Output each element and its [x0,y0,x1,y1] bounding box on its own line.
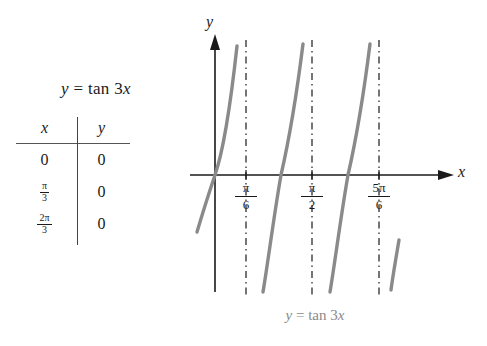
fraction-numerator: 2π [37,213,51,224]
fraction-numerator: 5π [359,181,399,195]
fraction: π 3 [40,181,49,203]
y-axis-label: y [206,13,213,31]
caption-tan: tan [308,307,326,323]
x-axis-label: x [458,163,465,181]
fraction-numerator: π [226,181,266,195]
table-header-row: x y [16,113,130,143]
caption-equals: = [296,307,304,323]
tangent-branch-3 [330,44,370,292]
table-body: 0 0 π 3 0 2π 3 [16,144,130,240]
fraction-denominator: 3 [37,224,51,236]
fraction-denominator: 6 [235,196,257,212]
value-table: x y 0 0 π 3 0 [16,113,130,240]
tangent-branch-2 [263,44,303,292]
equation-y: y [61,79,69,98]
graph-caption: y = tan 3x [225,307,405,324]
asymptote-lines [246,40,379,295]
x-tick-label-pi-over-2: π 2 [292,181,332,212]
tangent-branch-4 [391,240,399,290]
x-tick-label-5pi-over-6: 5π 6 [359,181,399,212]
table-cell-x: 0 [16,151,73,169]
x-axis-arrow [438,170,454,180]
table-header-x: x [16,113,73,143]
equation-tan: tan [88,79,110,98]
table-cell-y: 0 [73,215,130,233]
graph-panel: y x π 6 π 2 5π 6 y = tan 3x [190,0,487,346]
table-cell-x: 2π 3 [16,213,73,235]
x-axis [190,170,454,180]
fraction-denominator: 3 [40,192,49,204]
equation-x: x [123,79,131,98]
caption-three: 3 [330,307,338,323]
table-column-divider [77,117,78,245]
fraction-numerator: π [40,181,49,192]
table-cell-x: π 3 [16,181,73,203]
table-row: 0 0 [16,144,130,176]
table-panel: y = tan 3x x y 0 0 π [0,0,190,346]
figure-root: y = tan 3x x y 0 0 π [0,0,487,346]
fraction-denominator: 6 [368,196,390,212]
equation-label: y = tan 3x [26,79,166,99]
equation-equals: = [74,79,84,98]
table-row: π 3 0 [16,176,130,208]
fraction-numerator: π [292,181,332,195]
tangent-graph-svg [190,0,487,346]
x-tick-label-pi-over-6: π 6 [226,181,266,212]
fraction-denominator: 2 [301,196,323,212]
tangent-curves [197,44,399,292]
table-row: 2π 3 0 [16,208,130,240]
equation-three: 3 [114,79,123,98]
fraction: 2π 3 [37,213,51,235]
caption-x: x [338,307,345,323]
table-cell-y: 0 [73,151,130,169]
table-header-y: y [73,113,130,143]
table-cell-y: 0 [73,183,130,201]
caption-y: y [286,307,293,323]
y-axis-arrow [210,34,220,50]
